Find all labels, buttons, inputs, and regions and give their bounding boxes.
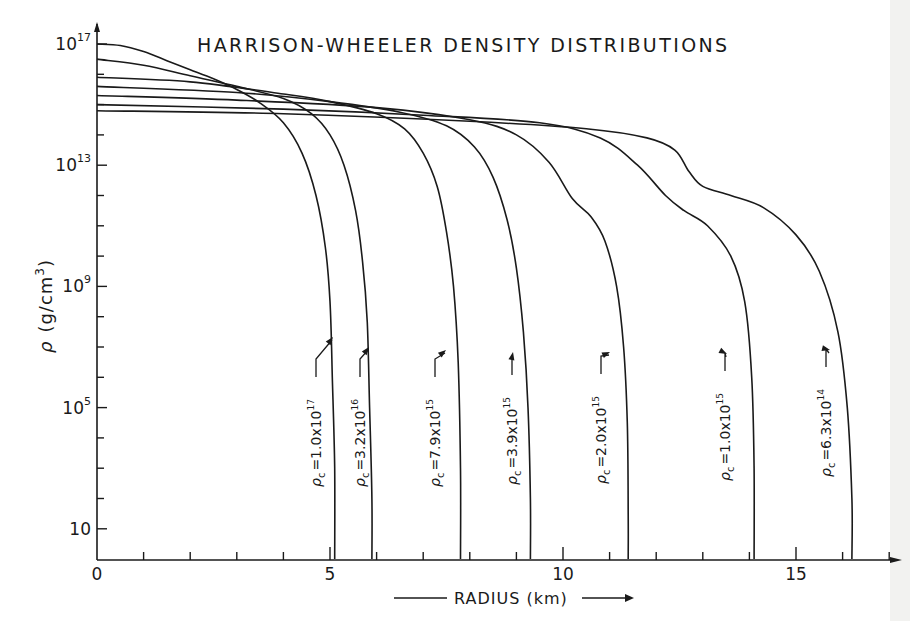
svg-text:ρc=3.9x1015: ρc=3.9x1015 xyxy=(502,397,523,485)
density-curve-2 xyxy=(97,77,461,559)
y-tick-label: 105 xyxy=(62,395,91,418)
y-axis-label-rho: ρ xyxy=(35,341,56,353)
svg-text:ρ(g/cm3): ρ(g/cm3) xyxy=(33,259,56,353)
curve-annotation-2: ρc=7.9x1015 xyxy=(425,350,446,487)
svg-text:ρc=7.9x1015: ρc=7.9x1015 xyxy=(425,399,446,487)
y-axis-arrow-icon xyxy=(94,22,100,32)
x-tick-label: 0 xyxy=(92,564,103,584)
chart-title: HARRISON-WHEELER DENSITY DISTRIBUTIONS xyxy=(197,34,730,56)
svg-text:ρc=3.2x1016: ρc=3.2x1016 xyxy=(350,399,371,487)
x-axis-label-arrow-icon xyxy=(625,594,634,602)
axes xyxy=(94,22,902,563)
curve-annotation-3: ρc=3.9x1015 xyxy=(502,352,523,485)
annotation-arrow-icon xyxy=(822,345,830,351)
page-edge xyxy=(890,0,910,621)
y-axis-label: ρ(g/cm3) xyxy=(33,259,56,353)
curve-annotation-5: ρc=1.0x1015 xyxy=(715,348,736,481)
annotation-arrow-icon xyxy=(719,348,727,354)
y-tick-label: 109 xyxy=(62,273,91,296)
curve-annotations: ρc=1.0x1017ρc=3.2x1016ρc=7.9x1015ρc=3.9x… xyxy=(306,337,837,487)
density-curve-6 xyxy=(97,111,852,559)
density-curve-5 xyxy=(97,105,754,559)
curves xyxy=(97,44,852,559)
curve-annotation-6: ρc=6.3x1014 xyxy=(816,345,837,477)
density-curve-4 xyxy=(97,96,628,560)
svg-text:ρc=1.0x1017: ρc=1.0x1017 xyxy=(306,399,327,487)
density-chart: HARRISON-WHEELER DENSITY DISTRIBUTIONS ρ… xyxy=(0,0,910,621)
curve-annotation-4: ρc=2.0x1015 xyxy=(591,352,612,484)
y-tick-label: 1013 xyxy=(55,152,91,175)
x-tick-label: 15 xyxy=(785,564,807,584)
svg-text:ρc=2.0x1015: ρc=2.0x1015 xyxy=(591,396,612,484)
y-tick-label: 10 xyxy=(69,519,91,539)
svg-text:ρc=1.0x1015: ρc=1.0x1015 xyxy=(715,393,736,481)
x-tick-label: 10 xyxy=(552,564,574,584)
ticks: 1017101310910510051015 xyxy=(55,31,889,584)
svg-text:ρc=6.3x1014: ρc=6.3x1014 xyxy=(816,389,837,477)
density-curve-0 xyxy=(97,44,335,559)
annotation-arrow-icon xyxy=(508,352,514,360)
x-axis-label: RADIUS (km) xyxy=(394,589,634,608)
curve-annotation-1: ρc=3.2x1016 xyxy=(350,347,371,487)
x-tick-label: 5 xyxy=(325,564,336,584)
curve-annotation-0: ρc=1.0x1017 xyxy=(306,337,333,487)
x-axis-label-text: RADIUS (km) xyxy=(454,589,568,608)
density-curve-3 xyxy=(97,86,531,559)
y-tick-label: 1017 xyxy=(55,31,91,54)
